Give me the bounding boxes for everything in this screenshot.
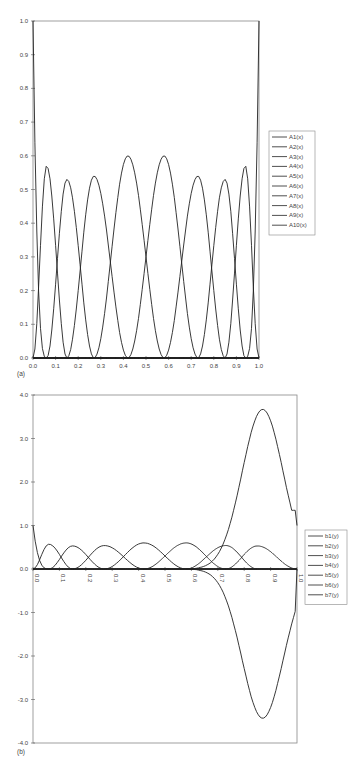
legend-entry: b2(y) bbox=[325, 543, 339, 549]
x-tick-label: 0.7 bbox=[219, 574, 225, 583]
y-tick-label: 4.0 bbox=[20, 392, 29, 398]
y-tick-label: 3.0 bbox=[20, 436, 29, 442]
legend-entry: b3(y) bbox=[325, 553, 339, 559]
x-tick-label: 0.6 bbox=[192, 574, 198, 583]
x-tick-label: 1.0 bbox=[298, 574, 304, 583]
y-tick-label: -4.0 bbox=[18, 740, 29, 746]
x-tick-label: 0.5 bbox=[166, 574, 172, 583]
x-tick-label: 0.8 bbox=[245, 574, 251, 583]
x-tick-label: 0.4 bbox=[140, 574, 146, 583]
series-line-b1(y) bbox=[33, 526, 297, 570]
legend-entry: b7(y) bbox=[325, 592, 339, 598]
series-line-b7(y) bbox=[33, 569, 297, 718]
series-line-b3(y) bbox=[33, 546, 297, 569]
legend-entry: b4(y) bbox=[325, 562, 339, 568]
series-line-extra bbox=[144, 543, 226, 569]
series-line-b6(y) bbox=[33, 410, 297, 570]
x-tick-label: 0.2 bbox=[87, 574, 93, 583]
series-line-extra bbox=[226, 546, 297, 569]
y-tick-label: 1.0 bbox=[20, 523, 29, 529]
y-tick-label: 0.0 bbox=[20, 566, 29, 572]
series-line-b4(y) bbox=[33, 546, 297, 569]
legend-entry: b6(y) bbox=[325, 582, 339, 588]
y-tick-label: -1.0 bbox=[18, 610, 29, 616]
legend-entry: b5(y) bbox=[325, 572, 339, 578]
legend-entry: b1(y) bbox=[325, 533, 339, 539]
series-line-b2(y) bbox=[33, 544, 297, 569]
panel-label: (b) bbox=[17, 748, 25, 756]
x-tick-label: 0.3 bbox=[113, 574, 119, 583]
x-tick-label: 0.1 bbox=[60, 574, 66, 583]
chart-b: -4.0-3.0-2.0-1.00.01.02.03.04.00.00.10.2… bbox=[0, 0, 359, 772]
x-tick-label: 0.0 bbox=[34, 574, 40, 583]
series-line-extra bbox=[186, 546, 257, 570]
y-tick-label: -3.0 bbox=[18, 697, 29, 703]
x-tick-label: 0.9 bbox=[272, 574, 278, 583]
y-tick-label: 2.0 bbox=[20, 479, 29, 485]
y-tick-label: -2.0 bbox=[18, 653, 29, 659]
